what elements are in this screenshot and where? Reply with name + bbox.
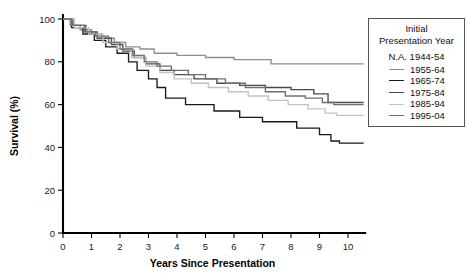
legend-title-line2: Presentation Year <box>376 35 457 47</box>
legend-item-1965-74: 1965-74 <box>376 75 457 87</box>
x-tick-label: 0 <box>60 241 65 252</box>
y-tick-label: 60 <box>44 99 55 110</box>
x-tick-label: 5 <box>203 241 208 252</box>
x-tick-label: 3 <box>146 241 151 252</box>
legend-item-1975-84: 1975-84 <box>376 87 457 99</box>
legend-swatch-icon <box>389 104 404 105</box>
chart-axes <box>63 15 365 233</box>
x-axis-title: Years Since Presentation <box>150 257 275 269</box>
legend: Initial Presentation Year N.A. 1944-54 1… <box>368 18 465 127</box>
legend-swatch-icon <box>389 69 404 70</box>
x-tick-label: 10 <box>343 241 354 252</box>
legend-item-label: 1955-64 <box>410 64 445 76</box>
survival-curve-1985-94 <box>63 19 364 115</box>
x-tick-label: 8 <box>288 241 293 252</box>
x-tick-label: 9 <box>317 241 322 252</box>
x-tick-label: 1 <box>89 241 94 252</box>
legend-item-1995-04: 1995-04 <box>376 110 457 122</box>
legend-item-1955-64: 1955-64 <box>376 64 457 76</box>
legend-swatch-icon <box>389 80 404 81</box>
legend-item-label: 1995-04 <box>410 110 445 122</box>
survival-curve-1995-04 <box>63 19 364 105</box>
y-tick-label: 0 <box>50 228 55 239</box>
x-tick-label: 4 <box>174 241 179 252</box>
y-tick-label: 100 <box>39 14 55 25</box>
legend-item-label: 1975-84 <box>410 87 445 99</box>
y-tick-label: 20 <box>44 185 55 196</box>
legend-item-1985-94: 1985-94 <box>376 98 457 110</box>
legend-swatch-icon <box>389 115 404 116</box>
x-tick-label: 2 <box>117 241 122 252</box>
y-tick-label: 80 <box>44 56 55 67</box>
legend-entry-na: N.A. 1944-54 <box>376 51 457 63</box>
survival-chart-figure: 020406080100012345678910Years Since Pres… <box>0 0 467 280</box>
survival-curve-1975-84 <box>63 19 364 102</box>
y-tick-label: 40 <box>44 142 55 153</box>
y-axis-title: Survival (%) <box>8 96 20 156</box>
x-tick-label: 7 <box>260 241 265 252</box>
legend-item-label: 1965-74 <box>410 75 445 87</box>
legend-entries: 1955-641965-741975-841985-941995-04 <box>376 64 457 122</box>
legend-item-label: 1985-94 <box>410 98 445 110</box>
legend-swatch-icon <box>389 92 404 93</box>
legend-title-line1: Initial <box>376 23 457 35</box>
x-tick-label: 6 <box>231 241 236 252</box>
